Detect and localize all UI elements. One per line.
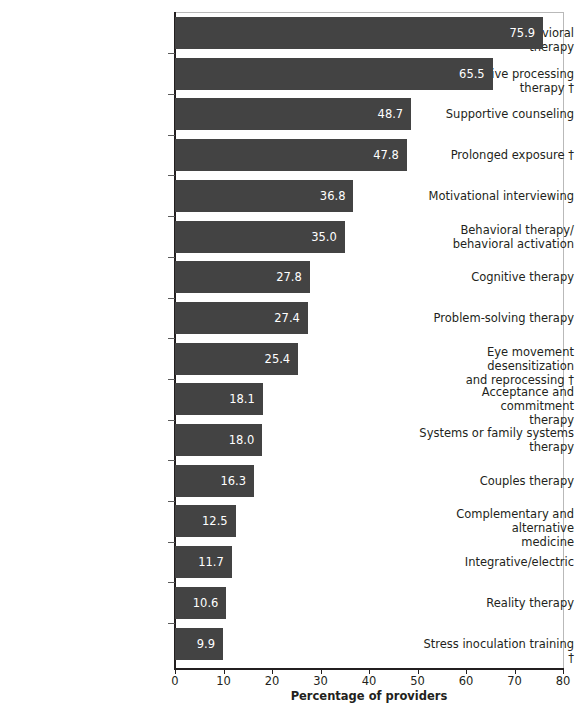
y-axis-tick [168,501,175,502]
bar-row: 25.4 [175,343,563,375]
bar-row: 12.5 [175,505,563,537]
bar [175,98,411,130]
bar [175,17,543,49]
x-axis-tick-label: 80 [543,674,583,688]
x-axis-tick-label: 60 [446,674,486,688]
bar-row: 48.7 [175,98,563,130]
y-axis-tick [168,623,175,624]
y-axis-tick [168,216,175,217]
bar-row: 18.1 [175,383,563,415]
bar-value-label: 36.8 [320,180,346,212]
bar-row: 35.0 [175,221,563,253]
x-axis-title: Percentage of providers [175,689,563,703]
y-axis-tick [168,53,175,54]
y-axis-tick [168,379,175,380]
bar-row: 47.8 [175,139,563,171]
bar-row: 11.7 [175,546,563,578]
bar-row: 75.9 [175,17,563,49]
bar-value-label: 11.7 [198,546,224,578]
y-axis-tick [168,298,175,299]
y-axis-tick [168,135,175,136]
y-axis-tick [168,420,175,421]
bar-value-label: 27.8 [276,261,302,293]
bar-value-label: 65.5 [459,58,485,90]
x-axis-tick-label: 30 [301,674,341,688]
bar-value-label: 16.3 [220,465,246,497]
x-axis-tick-label: 20 [252,674,292,688]
bar [175,58,493,90]
x-axis-tick-label: 0 [155,674,195,688]
bar-value-label: 9.9 [197,628,215,660]
bar-row: 9.9 [175,628,563,660]
x-axis-tick-label: 70 [495,674,535,688]
y-axis-tick [168,542,175,543]
bar [175,139,407,171]
bar-value-label: 12.5 [202,505,228,537]
y-axis-tick [168,175,175,176]
y-axis-tick [168,338,175,339]
bar-row: 36.8 [175,180,563,212]
bar-row: 27.4 [175,302,563,334]
bar-value-label: 35.0 [311,221,337,253]
x-axis-tick-label: 50 [398,674,438,688]
bar-value-label: 25.4 [265,343,291,375]
bar-row: 27.8 [175,261,563,293]
y-axis-tick [168,582,175,583]
bar-value-label: 18.0 [229,424,255,456]
bar-row: 65.5 [175,58,563,90]
x-axis-tick-label: 40 [349,674,389,688]
y-axis-tick [168,257,175,258]
bar-value-label: 48.7 [378,98,404,130]
y-axis-tick [168,94,175,95]
bar-value-label: 10.6 [193,587,219,619]
bar-value-label: 18.1 [229,383,255,415]
bar-row: 16.3 [175,465,563,497]
y-axis-tick [168,460,175,461]
bar-value-label: 75.9 [510,17,536,49]
x-axis-tick-label: 10 [204,674,244,688]
bar-row: 10.6 [175,587,563,619]
bar-row: 18.0 [175,424,563,456]
bar-value-label: 47.8 [373,139,399,171]
bar-value-label: 27.4 [274,302,300,334]
